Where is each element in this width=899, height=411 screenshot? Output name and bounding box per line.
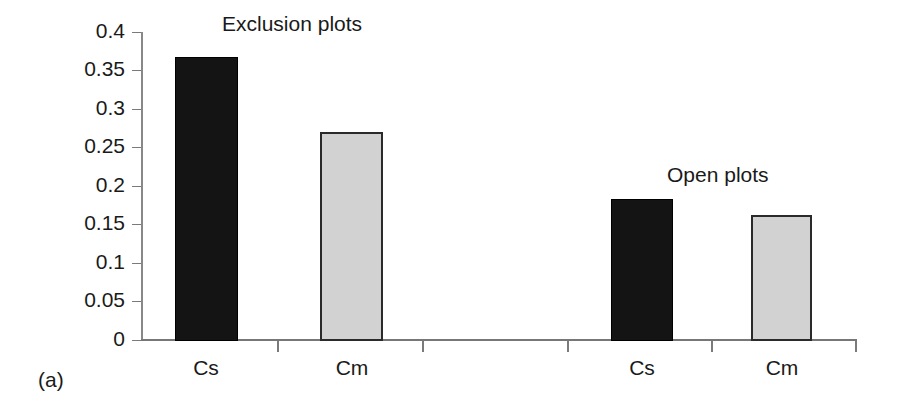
y-tick-0.15 xyxy=(132,224,141,225)
y-tick-label-0.1: 0.1 xyxy=(57,250,125,274)
x-label-exclusion-cm: Cm xyxy=(312,356,392,380)
y-tick-label-0.2: 0.2 xyxy=(57,173,125,197)
y-tick-0.2 xyxy=(132,186,141,187)
bar-open-cm xyxy=(751,215,812,341)
y-axis-line xyxy=(141,32,143,341)
annotation-exclusion-plots: Exclusion plots xyxy=(222,12,362,36)
x-tick-end xyxy=(855,341,857,352)
y-tick-0.3 xyxy=(132,109,141,110)
bar-exclusion-cs xyxy=(175,57,238,341)
y-tick-0.25 xyxy=(132,147,141,148)
y-tick-label-0.35: 0.35 xyxy=(57,57,125,81)
y-tick-0.05 xyxy=(132,301,141,302)
y-tick-0.4 xyxy=(132,32,141,33)
panel-label: (a) xyxy=(38,368,64,392)
x-tick-4 xyxy=(711,341,713,352)
y-tick-label-0.3: 0.3 xyxy=(57,96,125,120)
y-tick-label-0.15: 0.15 xyxy=(57,211,125,235)
x-label-open-cm: Cm xyxy=(742,356,822,380)
y-tick-label-0.25: 0.25 xyxy=(57,134,125,158)
bar-chart-figure: Proportion of trees reproducing 0 0.05 0… xyxy=(0,0,899,411)
y-tick-0.35 xyxy=(132,70,141,71)
x-tick-2 xyxy=(422,341,424,352)
x-label-exclusion-cs: Cs xyxy=(166,356,246,380)
y-tick-label-0.05: 0.05 xyxy=(57,288,125,312)
bar-exclusion-cm xyxy=(320,132,383,341)
annotation-open-plots: Open plots xyxy=(667,163,769,187)
x-axis-line xyxy=(141,339,857,341)
y-tick-label-0: 0 xyxy=(57,327,125,351)
y-tick-label-0.4: 0.4 xyxy=(57,19,125,43)
x-tick-3 xyxy=(567,341,569,352)
y-tick-0.1 xyxy=(132,263,141,264)
x-label-open-cs: Cs xyxy=(602,356,682,380)
x-tick-1 xyxy=(277,341,279,352)
bar-open-cs xyxy=(611,199,673,341)
y-tick-0 xyxy=(132,340,141,341)
